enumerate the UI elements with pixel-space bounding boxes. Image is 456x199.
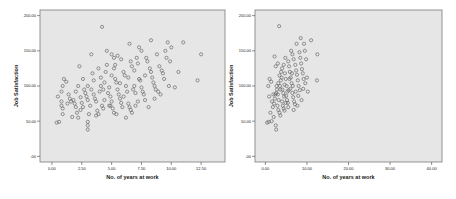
x-tick-label: 7.50 [138,166,147,171]
scatter-plot-years-0-12: .0050.00100.00150.00200.000.002.505.007.… [0,0,228,199]
x-tick-label: 0.00 [261,166,270,171]
x-axis-title: No. of years at work [322,174,375,180]
y-tick-label: 150.00 [239,48,252,53]
scatter-plot-years-0-40: .0050.00100.00150.00200.000.0010.0020.00… [228,0,456,199]
x-axis-title: No. of years at work [106,174,159,180]
x-tick-label: 40.00 [427,166,438,171]
scatter-chart-left: .0050.00100.00150.00200.000.002.505.007.… [0,0,228,199]
x-tick-label: 2.50 [78,166,87,171]
y-axis-title: Job Satisfaction [228,64,234,107]
plot-area [255,10,442,162]
y-tick-label: 100.00 [24,83,37,88]
y-tick-label: 200.00 [239,13,252,18]
y-tick-label: .00 [245,154,251,159]
x-tick-label: 0.00 [48,166,57,171]
x-tick-label: 12.50 [196,166,207,171]
x-tick-label: 5.00 [108,166,117,171]
y-tick-label: .00 [30,154,36,159]
x-tick-label: 10.00 [166,166,177,171]
y-tick-label: 150.00 [24,48,37,53]
y-tick-label: 200.00 [24,13,37,18]
y-tick-label: 50.00 [241,119,252,124]
x-tick-label: 20.00 [343,166,354,171]
y-tick-label: 50.00 [26,119,37,124]
y-axis-title: Job Satisfaction [13,64,19,107]
x-tick-label: 30.00 [385,166,396,171]
y-tick-label: 100.00 [239,83,252,88]
scatter-chart-right: .0050.00100.00150.00200.000.0010.0020.00… [228,0,456,199]
x-tick-label: 10.00 [302,166,313,171]
